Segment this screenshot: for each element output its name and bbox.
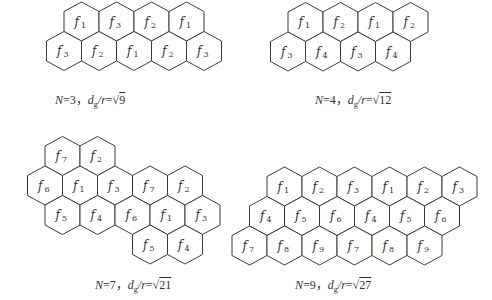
caption-ratio-value: 12 <box>379 93 391 107</box>
caption-separator: ， <box>76 93 88 107</box>
cluster-panel-n4: f1f2f1f2f3f4f3f4 <box>271 3 429 72</box>
caption-separator: ， <box>116 278 128 292</box>
caption-equals: = <box>146 278 153 292</box>
caption-n-symbol: N <box>55 93 63 107</box>
caption-n4: N=4，dg/r=√12 <box>315 93 391 107</box>
caption-equals: = <box>63 93 70 107</box>
caption-n3: N=3，dg/r=√9 <box>55 93 125 107</box>
cluster-panel-n7: f7f2f6f1f3f7f2f5f4f6f1f3f5f4 <box>28 137 221 265</box>
caption-equals: = <box>103 278 110 292</box>
caption-equals: = <box>323 93 330 107</box>
cluster-panel-n3: f1f3f2f1f3f2f1f2f3 <box>47 2 222 71</box>
caption-n-symbol: N <box>315 93 323 107</box>
caption-equals: = <box>366 93 373 107</box>
caption-ratio-value: 27 <box>359 278 371 292</box>
caption-ratio-value: 21 <box>159 278 171 292</box>
caption-n-symbol: N <box>295 278 303 292</box>
caption-equals: = <box>106 93 113 107</box>
caption-slash-r: /r <box>98 93 106 107</box>
caption-slash-r: /r <box>138 278 146 292</box>
caption-n9: N=9，dg/r=√27 <box>295 278 371 292</box>
caption-slash-r: /r <box>338 278 346 292</box>
caption-equals: = <box>346 278 353 292</box>
caption-slash-r: /r <box>358 93 366 107</box>
caption-equals: = <box>303 278 310 292</box>
caption-separator: ， <box>336 93 348 107</box>
caption-n-symbol: N <box>95 278 103 292</box>
frequency-reuse-diagram: f1f3f2f1f3f2f1f2f3 f1f2f1f2f3f4f3f4 f7f2… <box>0 0 492 300</box>
caption-separator: ， <box>316 278 328 292</box>
caption-ratio-value: 9 <box>119 93 125 107</box>
caption-n7: N=7，dg/r=√21 <box>95 278 171 292</box>
cluster-panel-n9: f1f2f3f1f2f3f4f5f6f4f5f6f7f8f9f7f8f9 <box>232 167 477 265</box>
